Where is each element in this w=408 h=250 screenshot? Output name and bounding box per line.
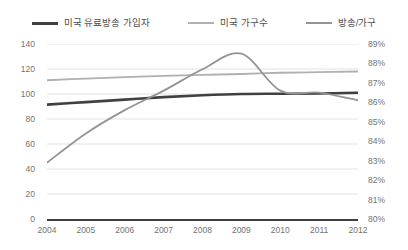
x-axis-tick: 2011 [310,226,328,235]
y-axis-right-tick: 87% [362,79,385,88]
line-swatch-icon [188,22,214,24]
legend-item-us-households: 미국 가구수 [188,18,268,28]
y-axis-right-tick: 83% [362,156,385,165]
y-axis-left-tick: 140 [21,40,41,49]
series-lines [47,44,358,219]
x-axis-tick: 2006 [115,226,134,235]
y-axis-left: 140120100806040200 [0,44,41,219]
line-swatch-icon [306,22,332,24]
y-axis-left-tick: 40 [26,165,41,174]
legend-item-pay-tv-subscribers: 미국 유료방송 가입자 [32,18,150,28]
series-line [47,72,358,81]
x-axis-tick: 2007 [154,226,173,235]
series-line [47,93,358,105]
y-axis-left-tick: 60 [26,140,41,149]
x-axis-tick: 2012 [349,226,368,235]
y-axis-right-tick: 89% [362,40,385,49]
legend-label: 미국 유료방송 가입자 [64,18,150,28]
y-axis-right-tick: 86% [362,98,385,107]
y-axis-right-tick: 85% [362,118,385,127]
x-axis-tick: 2004 [38,226,57,235]
x-axis-tick: 2008 [193,226,212,235]
y-axis-left-tick: 120 [21,65,41,74]
y-axis-left-tick: 80 [26,115,41,124]
y-axis-right: 89%88%87%86%85%84%83%82%81%80% [362,44,408,219]
x-axis: 200420052006200720082009201020112012 [47,224,358,240]
axis-baseline [47,219,358,221]
y-axis-right-tick: 84% [362,137,385,146]
x-axis-tick: 2009 [232,226,251,235]
y-axis-right-tick: 88% [362,59,385,68]
plot-area [47,44,358,219]
line-swatch-icon [32,22,58,25]
x-axis-tick: 2005 [76,226,95,235]
legend-item-broadcast-per-household: 방송/가구 [306,18,377,28]
y-axis-right-tick: 82% [362,176,385,185]
chart-container: 미국 유료방송 가입자 미국 가구수 방송/가구 140120100806040… [0,0,408,250]
y-axis-right-tick: 80% [362,215,385,224]
y-axis-left-tick: 100 [21,90,41,99]
y-axis-left-tick: 20 [26,190,41,199]
chart-legend: 미국 유료방송 가입자 미국 가구수 방송/가구 [0,12,408,34]
legend-label: 방송/가구 [338,18,377,28]
y-axis-right-tick: 81% [362,195,385,204]
x-axis-tick: 2010 [271,226,290,235]
series-line [47,53,358,162]
legend-label: 미국 가구수 [220,18,268,28]
y-axis-left-tick: 0 [30,215,41,224]
